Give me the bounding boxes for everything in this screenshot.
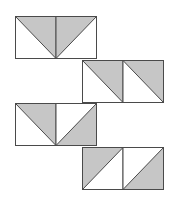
block-3 [15, 103, 97, 146]
half-square-triangle [56, 104, 97, 146]
half-square-triangle [16, 17, 57, 59]
half-square-triangle [83, 61, 124, 103]
block-1 [15, 16, 97, 59]
half-square-triangle [16, 104, 57, 146]
half-square-triangle [123, 148, 164, 190]
half-square-triangle [56, 17, 97, 59]
block-4 [82, 147, 164, 190]
block-2 [82, 60, 164, 103]
half-square-triangle [123, 61, 164, 103]
half-square-triangle [83, 148, 124, 190]
